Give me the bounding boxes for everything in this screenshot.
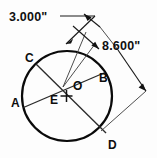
point-label-b: B <box>99 71 108 85</box>
chord-line-cd <box>36 64 106 133</box>
circle-chord-diagram: 3.000" 8.600" A B C D E O <box>0 0 157 158</box>
point-label-e: E <box>50 93 58 107</box>
dim-line-3000 <box>66 16 95 44</box>
point-label-a: A <box>11 96 20 110</box>
extension-line-8600-to-d <box>101 91 146 131</box>
point-label-o: O <box>73 79 82 93</box>
dimension-label-3000: 3.000" <box>9 10 47 24</box>
chord-line-ab <box>24 73 106 108</box>
arrow-head-3000 <box>66 39 73 44</box>
technical-drawing-canvas: 3.000" 8.600" A B C D E O <box>0 0 157 158</box>
point-label-c: C <box>25 51 34 65</box>
dimension-label-8600: 8.600" <box>102 39 140 53</box>
point-label-d: D <box>108 138 117 152</box>
arrow-head-8600-lower <box>139 84 146 91</box>
